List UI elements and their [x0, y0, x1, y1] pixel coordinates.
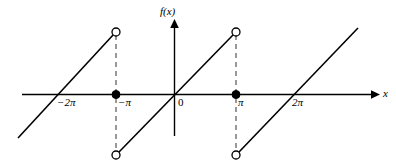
x-axis-label: x	[383, 88, 388, 99]
tick-label-origin: 0	[178, 97, 184, 108]
open-circle-pi-top	[232, 28, 240, 36]
open-circle-neg-pi-top	[112, 28, 120, 36]
ramp-segment-left	[18, 34, 114, 138]
function-curve	[18, 28, 358, 153]
ramp-segment-center	[118, 34, 234, 153]
function-graph-figure: f(x) x −2π −π 0 π 2π	[0, 0, 396, 168]
tick-label-two-pi: 2π	[292, 97, 303, 108]
open-circle-neg-pi-bottom	[112, 151, 120, 159]
x-axis-arrowhead	[371, 90, 380, 99]
x-axis	[22, 90, 380, 99]
tick-label-neg-two-pi: −2π	[57, 97, 75, 108]
ramp-segment-right	[238, 28, 358, 153]
y-axis-arrowhead	[170, 19, 179, 28]
tick-label-neg-pi: −π	[118, 97, 131, 108]
tick-label-pi: π	[238, 97, 244, 108]
graph-canvas	[0, 0, 396, 168]
y-axis-label: f(x)	[160, 6, 175, 17]
y-axis	[170, 19, 179, 136]
open-circle-pi-bottom	[232, 151, 240, 159]
